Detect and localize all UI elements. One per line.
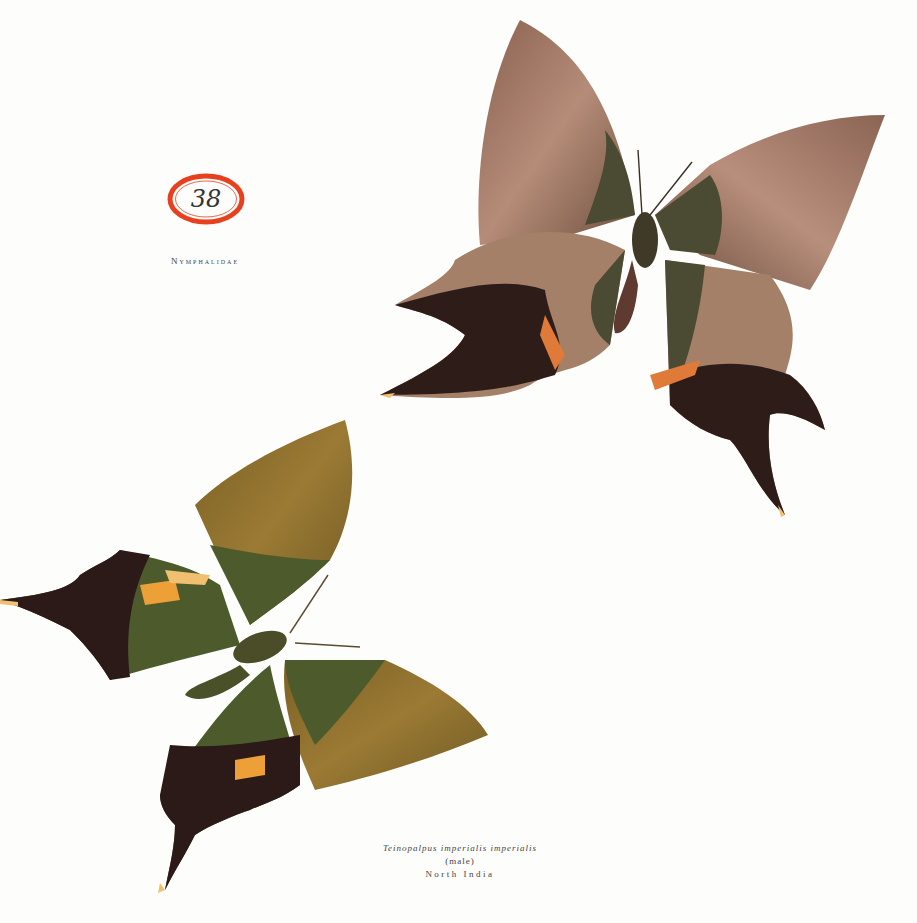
family-label: Nymphalidae — [140, 256, 270, 266]
plate-number-badge: 38 — [167, 173, 245, 225]
plate-number: 38 — [191, 185, 222, 213]
species-name: Teinopalpus imperialis imperialis — [340, 842, 580, 855]
specimen-sex: (male) — [340, 855, 580, 868]
butterfly-illustration-lower — [0, 415, 495, 895]
specimen-caption: Teinopalpus imperialis imperialis (male)… — [340, 842, 580, 881]
specimen-locality: North India — [340, 868, 580, 881]
